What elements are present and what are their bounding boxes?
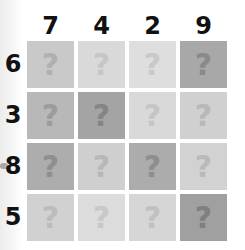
row-label-3: 8 — [2, 143, 24, 190]
question-mark-icon: ? — [42, 152, 59, 182]
question-mark-icon: ? — [195, 152, 212, 182]
grid-cell-r1-c4[interactable]: ? — [180, 41, 227, 88]
question-mark-icon: ? — [42, 203, 59, 233]
grid-cell-r4-c4[interactable]: ? — [180, 194, 227, 241]
grid-cell-r1-c1[interactable]: ? — [27, 41, 74, 88]
question-mark-icon: ? — [195, 203, 212, 233]
grid-cell-r3-c2[interactable]: ? — [78, 143, 125, 190]
question-mark-icon: ? — [93, 101, 110, 131]
grid-cell-r2-c2[interactable]: ? — [78, 92, 125, 139]
question-mark-icon: ? — [195, 50, 212, 80]
question-mark-icon: ? — [195, 101, 212, 131]
question-mark-icon: ? — [93, 152, 110, 182]
grid-cell-r2-c3[interactable]: ? — [129, 92, 176, 139]
column-label-4: 9 — [180, 13, 227, 39]
grid-cell-r3-c3[interactable]: ? — [129, 143, 176, 190]
column-label-3: 2 — [129, 13, 176, 39]
grid-cell-r3-c4[interactable]: ? — [180, 143, 227, 190]
question-mark-icon: ? — [42, 101, 59, 131]
grid-cell-r4-c2[interactable]: ? — [78, 194, 125, 241]
question-mark-icon: ? — [144, 101, 161, 131]
grid-cell-r2-c1[interactable]: ? — [27, 92, 74, 139]
grid-cell-r1-c2[interactable]: ? — [78, 41, 125, 88]
grid-cell-r4-c1[interactable]: ? — [27, 194, 74, 241]
row-label-2: 3 — [2, 92, 24, 139]
question-mark-icon: ? — [93, 203, 110, 233]
question-mark-icon: ? — [144, 203, 161, 233]
question-mark-icon: ? — [144, 50, 161, 80]
grid-cell-r3-c1[interactable]: ? — [27, 143, 74, 190]
question-mark-icon: ? — [144, 152, 161, 182]
grid-cell-r2-c4[interactable]: ? — [180, 92, 227, 139]
row-label-4: 5 — [2, 194, 24, 241]
row-label-1: 6 — [2, 41, 24, 88]
question-mark-icon: ? — [93, 50, 110, 80]
grid-cell-r1-c3[interactable]: ? — [129, 41, 176, 88]
grid-cell-r4-c3[interactable]: ? — [129, 194, 176, 241]
question-mark-icon: ? — [42, 50, 59, 80]
column-label-1: 7 — [27, 13, 74, 39]
column-label-2: 4 — [78, 13, 125, 39]
